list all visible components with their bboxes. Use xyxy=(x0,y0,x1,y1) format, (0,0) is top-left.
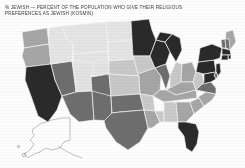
figure-title: % JEWISH — PERCENT OF THE POPULATION WHO… xyxy=(5,5,239,17)
alaska-small-island-a xyxy=(17,145,20,148)
state-new-york xyxy=(198,44,222,62)
state-alaska-inset-outline xyxy=(24,118,70,158)
state-florida xyxy=(178,122,199,152)
state-oregon xyxy=(22,44,51,67)
state-connecticut xyxy=(221,55,228,60)
state-south-dakota xyxy=(108,40,134,61)
us-choropleth-map xyxy=(0,18,245,168)
us-map-svg xyxy=(0,18,245,168)
state-arizona xyxy=(62,91,94,122)
alaska-small-island-b xyxy=(22,153,26,157)
state-rhode-island xyxy=(228,55,231,59)
figure-title-line-2: PREFERENCES AS JEWISH (KOSMIN) xyxy=(5,11,239,17)
map-figure: % JEWISH — PERCENT OF THE POPULATION WHO… xyxy=(0,0,245,168)
state-north-dakota xyxy=(106,21,132,42)
state-maryland xyxy=(202,72,216,84)
state-kansas xyxy=(109,74,140,96)
alaska-aleutian-chain xyxy=(58,146,82,158)
state-texas xyxy=(104,110,148,150)
state-alabama xyxy=(164,102,178,122)
